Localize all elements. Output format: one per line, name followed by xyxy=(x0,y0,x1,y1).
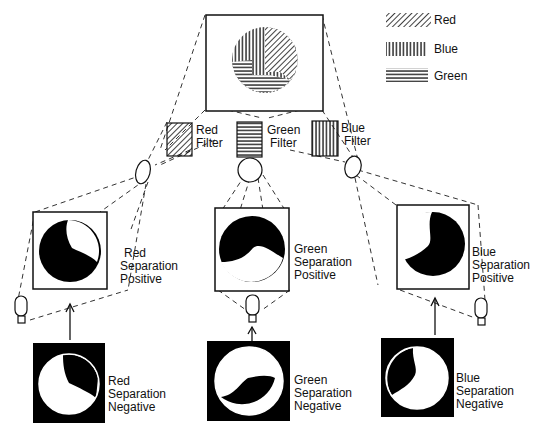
green-negative-line3: Negative xyxy=(294,400,352,413)
green-filter-label-line2: Filter xyxy=(270,137,300,150)
blue-negative-line3: Negative xyxy=(456,398,514,411)
legend-label-red: Red xyxy=(434,13,456,27)
red-negative-label: Red Separation Negative xyxy=(108,375,166,414)
green-negative-label: Green Separation Negative xyxy=(294,374,352,413)
blue-negative-label: Blue Separation Negative xyxy=(456,372,514,411)
blue-filter-swatch xyxy=(312,121,338,156)
green-filter-label: Green Filter xyxy=(267,124,300,150)
lens-red xyxy=(133,159,153,186)
blue-filter-label: Blue Filter xyxy=(341,122,371,148)
lens-green xyxy=(238,158,262,182)
blue-positive-line3: Positive xyxy=(472,272,530,285)
filters xyxy=(167,121,338,157)
red-positive-line3: Positive xyxy=(120,273,178,286)
red-filter-swatch xyxy=(167,123,192,156)
green-filter-swatch xyxy=(237,122,262,157)
blue-positive-label: Blue Separation Positive xyxy=(472,246,530,285)
positives xyxy=(33,205,469,291)
lens-blue xyxy=(342,154,363,179)
red-filter-label-line2: Filter xyxy=(196,137,223,150)
original-image xyxy=(206,15,323,111)
projector-lamps xyxy=(15,295,487,325)
red-negative-line3: Negative xyxy=(108,401,166,414)
green-positive-label: Green Separation Positive xyxy=(294,243,352,282)
legend-label-green: Green xyxy=(434,69,467,83)
legend-swatch-red xyxy=(386,13,431,27)
blue-filter-label-line2: Filter xyxy=(344,135,371,148)
legend-label-blue: Blue xyxy=(434,42,458,56)
legend-swatch-green xyxy=(386,68,428,82)
red-filter-label: Red Filter xyxy=(196,124,223,150)
legend xyxy=(386,13,431,82)
legend-swatch-blue xyxy=(386,42,426,56)
negatives xyxy=(33,338,454,423)
green-positive-line3: Positive xyxy=(294,269,352,282)
red-positive-label: Red Separation Positive xyxy=(120,247,178,286)
color-separation-diagram xyxy=(0,0,545,433)
